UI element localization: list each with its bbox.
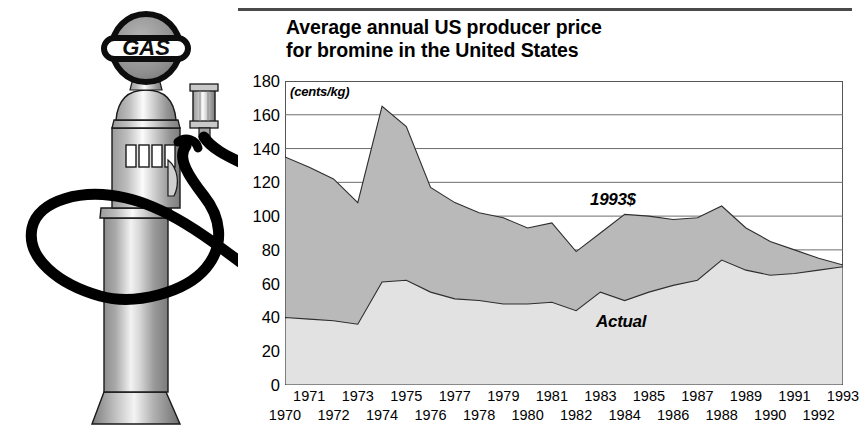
figure-root: GAS [0, 0, 860, 448]
x-axis-tick-label: 1986 [657, 407, 689, 423]
x-axis-tick-label: 1982 [560, 407, 592, 423]
chart-title: Average annual US producer price for bro… [286, 16, 846, 62]
x-axis-tick-label: 1977 [439, 388, 471, 404]
x-axis-row-even: 1970197219741976197819801982198419861988… [285, 407, 845, 427]
series-label-1993-dollars: 1993$ [590, 190, 636, 210]
pump-lower-body [104, 218, 168, 392]
x-axis-tick-label: 1974 [366, 407, 398, 423]
x-axis-tick-label: 1971 [293, 388, 325, 404]
x-axis-labels: 1971197319751977197919811983198519871989… [285, 388, 845, 434]
x-axis-tick-label: 1993 [827, 388, 859, 404]
x-axis-tick-label: 1975 [390, 388, 422, 404]
y-axis-tick-label: 140 [240, 141, 280, 158]
y-axis-tick-label: 100 [240, 208, 280, 225]
plot-area [285, 81, 843, 385]
x-axis-tick-label: 1981 [536, 388, 568, 404]
x-axis-tick-label: 1990 [754, 407, 786, 423]
y-axis-tick-label: 180 [240, 73, 280, 90]
y-axis-tick-label: 20 [240, 343, 280, 360]
pump-shoulder [112, 82, 180, 128]
gas-pump-svg: GAS [0, 0, 238, 448]
x-axis-tick-label: 1978 [463, 407, 495, 423]
gas-pump-illustration: GAS [0, 0, 238, 448]
series-label-actual: Actual [596, 312, 646, 332]
chart-plot-svg [285, 81, 843, 385]
x-axis-row-odd: 1971197319751977197919811983198519871989… [285, 388, 845, 408]
x-axis-tick-label: 1980 [511, 407, 543, 423]
x-axis-tick-label: 1983 [584, 388, 616, 404]
x-axis-tick-label: 1988 [706, 407, 738, 423]
y-axis-labels: 020406080100120140160180 [238, 81, 280, 385]
pump-nozzle [190, 84, 218, 137]
pump-base [92, 392, 180, 424]
x-axis-tick-label: 1979 [487, 388, 519, 404]
y-axis-tick-label: 0 [240, 377, 280, 394]
y-axis-tick-label: 40 [240, 309, 280, 326]
x-axis-tick-label: 1972 [317, 407, 349, 423]
globe-text: GAS [122, 35, 170, 60]
x-axis-tick-label: 1976 [414, 407, 446, 423]
y-axis-tick-label: 60 [240, 276, 280, 293]
chart-panel: Average annual US producer price for bro… [238, 0, 860, 448]
x-axis-tick-label: 1984 [609, 407, 641, 423]
y-axis-tick-label: 160 [240, 107, 280, 124]
panel-top-rule [238, 8, 852, 11]
y-axis-tick-label: 80 [240, 242, 280, 259]
x-axis-tick-label: 1989 [730, 388, 762, 404]
chart-title-line-2: for bromine in the United States [286, 39, 846, 62]
x-axis-tick-label: 1987 [681, 388, 713, 404]
gas-globe-sign: GAS [104, 14, 188, 82]
y-axis-tick-label: 120 [240, 174, 280, 191]
x-axis-tick-label: 1973 [342, 388, 374, 404]
x-axis-tick-label: 1970 [269, 407, 301, 423]
x-axis-tick-label: 1992 [803, 407, 835, 423]
x-axis-tick-label: 1985 [633, 388, 665, 404]
x-axis-tick-label: 1991 [778, 388, 810, 404]
units-label: (cents/kg) [290, 84, 349, 99]
chart-title-line-1: Average annual US producer price [286, 16, 846, 39]
